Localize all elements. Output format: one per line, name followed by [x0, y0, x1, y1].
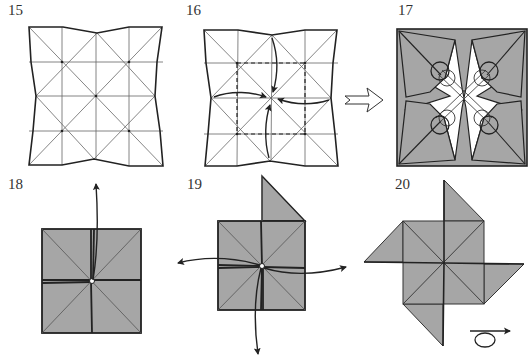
step-15-diagram: [29, 27, 163, 166]
step-18-diagram: [42, 184, 141, 333]
turn-over-symbol-icon: [470, 331, 510, 347]
step-16-diagram: [204, 30, 338, 166]
step-17-diagram: [397, 29, 527, 166]
step-20-diagram: [364, 180, 524, 347]
step-19-diagram: [178, 176, 346, 354]
origami-diagram: 15 16 17 18 19 20: [0, 0, 528, 360]
next-step-arrow-icon: [345, 88, 383, 112]
